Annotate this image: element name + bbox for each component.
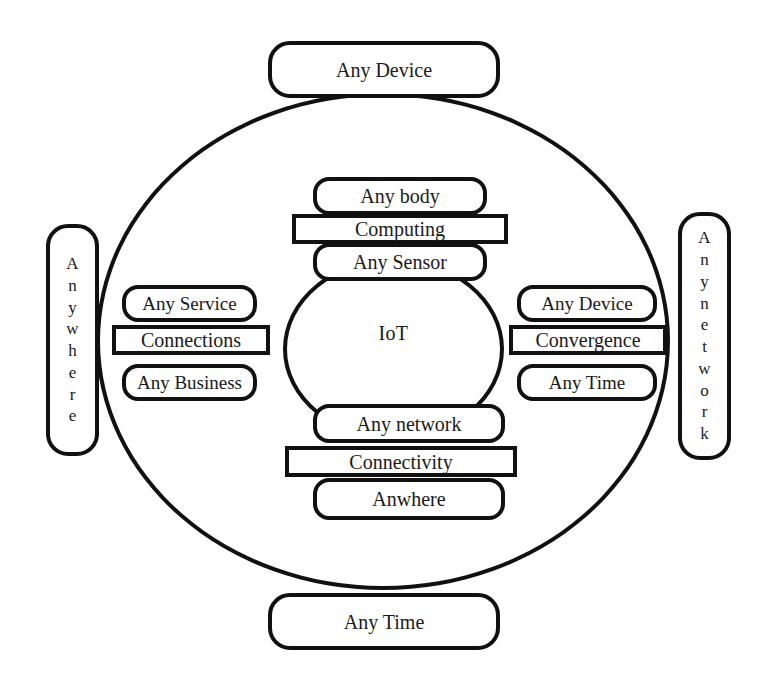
vertical-letter: n — [700, 293, 709, 315]
node-right-anynetwork[interactable]: A n y n e t w o r k — [678, 212, 731, 460]
vertical-letter: h — [68, 340, 77, 362]
vertical-letter: y — [68, 297, 77, 319]
vertical-letter: r — [702, 401, 708, 423]
node-right-any-time[interactable]: Any Time — [517, 364, 657, 401]
connector-connectivity[interactable]: Connectivity — [285, 446, 517, 477]
iot-diagram-canvas: IoT Any Device Any Time A n y w h e r e … — [0, 0, 775, 695]
vertical-letter: e — [69, 362, 77, 384]
vertical-letter: o — [700, 380, 709, 402]
node-bottom-any-time[interactable]: Any Time — [268, 593, 500, 650]
connector-connections[interactable]: Connections — [112, 325, 270, 355]
vertical-letter: A — [66, 253, 78, 275]
vertical-letter: e — [69, 405, 77, 427]
node-any-service[interactable]: Any Service — [122, 285, 257, 322]
center-label-iot: IoT — [283, 322, 504, 345]
connector-computing[interactable]: Computing — [292, 214, 508, 244]
node-any-network[interactable]: Any network — [313, 404, 505, 443]
node-any-body[interactable]: Any body — [313, 177, 487, 215]
vertical-letter: n — [700, 249, 709, 271]
vertical-letter: w — [66, 318, 78, 340]
vertical-letter: r — [70, 384, 76, 406]
node-left-anywhere[interactable]: A n y w h e r e — [46, 224, 99, 456]
node-any-sensor[interactable]: Any Sensor — [313, 243, 487, 281]
vertical-letter: k — [700, 423, 709, 445]
vertical-letter: A — [698, 227, 710, 249]
node-right-any-device[interactable]: Any Device — [517, 285, 657, 322]
vertical-letter: y — [700, 271, 709, 293]
vertical-letter: e — [701, 314, 709, 336]
vertical-letter: w — [698, 358, 710, 380]
node-any-business[interactable]: Any Business — [122, 364, 257, 401]
vertical-letter: t — [702, 336, 707, 358]
connector-convergence[interactable]: Convergence — [509, 325, 667, 355]
vertical-letter: n — [68, 275, 77, 297]
node-top-any-device[interactable]: Any Device — [268, 41, 500, 98]
node-anwhere[interactable]: Anwhere — [313, 478, 505, 520]
